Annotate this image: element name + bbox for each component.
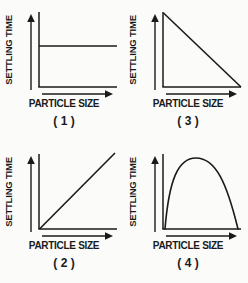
data-curve	[40, 153, 116, 229]
panel-caption: ( 4 )	[142, 256, 234, 270]
figure-container: SETTLING TIME PARTICLE SIZE ( 1 ) SETT	[0, 0, 248, 283]
plot-area-1	[18, 8, 120, 94]
x-axis-label: PARTICLE SIZE	[18, 240, 110, 251]
y-axis-label: SETTLING TIME	[126, 10, 139, 90]
arrow-right-icon	[42, 90, 113, 98]
arrow-right-icon	[166, 90, 237, 98]
panel-caption: ( 3 )	[142, 114, 234, 128]
arrow-right-icon	[166, 232, 237, 240]
x-axis-label: PARTICLE SIZE	[142, 240, 234, 251]
panel-caption: ( 2 )	[18, 256, 110, 270]
y-axis-label: SETTLING TIME	[2, 152, 15, 232]
arrow-up-icon	[151, 156, 159, 232]
y-axis-label: SETTLING TIME	[126, 152, 139, 232]
arrow-up-icon	[151, 14, 159, 90]
arrow-up-icon	[27, 14, 35, 90]
plot-panel-4: SETTLING TIME PARTICLE SIZE ( 4 )	[124, 142, 248, 283]
data-curve	[165, 158, 238, 229]
plot-panel-1: SETTLING TIME PARTICLE SIZE ( 1 )	[0, 0, 124, 141]
y-axis-label: SETTLING TIME	[2, 10, 15, 90]
x-axis-label: PARTICLE SIZE	[142, 98, 234, 109]
panel-caption: ( 1 )	[18, 114, 110, 128]
arrow-right-icon	[42, 232, 113, 240]
data-curve	[164, 13, 242, 87]
plot-panel-3: SETTLING TIME PARTICLE SIZE ( 3 )	[124, 0, 248, 141]
plot-panel-2: SETTLING TIME PARTICLE SIZE ( 2 )	[0, 142, 124, 283]
x-axis-label: PARTICLE SIZE	[18, 98, 110, 109]
plot-area-4	[142, 150, 244, 236]
arrow-up-icon	[27, 156, 35, 232]
plot-area-3	[142, 8, 244, 94]
plot-area-2	[18, 150, 120, 236]
